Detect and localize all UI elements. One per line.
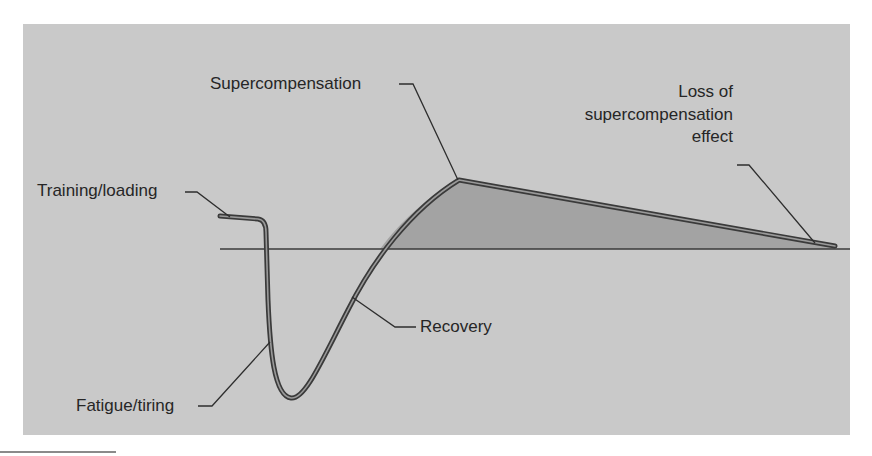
leader-recovery xyxy=(352,297,416,327)
supercompensation-area xyxy=(380,180,835,249)
leader-fatigue xyxy=(198,342,270,406)
supercompensation-diagram xyxy=(0,0,872,456)
label-training-loading: Training/loading xyxy=(37,181,157,201)
leader-supercompensation xyxy=(399,84,458,180)
label-loss-line1: Loss of xyxy=(553,82,733,102)
label-fatigue-tiring: Fatigue/tiring xyxy=(76,396,174,416)
leader-training xyxy=(185,192,230,217)
label-recovery: Recovery xyxy=(420,317,492,337)
label-loss-line2: supercompensation xyxy=(553,105,733,125)
label-supercompensation: Supercompensation xyxy=(210,74,361,94)
label-loss-line3: effect xyxy=(553,127,733,147)
